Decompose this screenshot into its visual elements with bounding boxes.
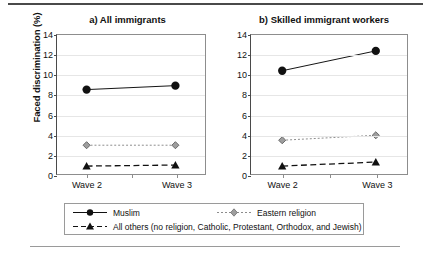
legend-item-muslim: Muslim [73,207,140,218]
y-tick-label: 6 [48,111,53,121]
series-line [282,162,376,166]
gridline [57,75,205,76]
y-tick-mark [54,95,57,96]
data-point-diamond [83,142,90,149]
y-tick-label: 14 [237,30,247,40]
y-tick-label: 2 [48,151,53,161]
data-point-circle [82,85,90,93]
gridline [57,55,205,56]
y-tick-label: 8 [48,90,53,100]
gridline [57,136,205,137]
legend-label-all-others: All others (no religion, Catholic, Prote… [113,222,362,232]
y-tick-mark [248,95,251,96]
y-tick-mark [248,156,251,157]
data-point-diamond [279,137,286,144]
y-tick-label: 0 [242,171,247,181]
panel-b-title: b) Skilled immigrant workers [222,14,414,25]
x-tick-mark [87,174,88,178]
data-point-circle [171,81,179,89]
y-tick-label: 10 [237,70,247,80]
y-tick-mark [54,136,57,137]
y-tick-label: 12 [237,50,247,60]
y-tick-mark [248,116,251,117]
gridline [57,95,205,96]
x-tick-label: Wave 2 [72,180,102,190]
legend-item-eastern-religion: Eastern religion [217,207,316,218]
y-tick-label: 6 [242,111,247,121]
panel-a-plot-area: 02468101214Wave 2Wave 3 [56,34,206,175]
y-tick-label: 14 [43,30,53,40]
y-tick-mark [54,156,57,157]
x-tick-mark-mid [330,174,331,178]
y-tick-mark [54,75,57,76]
y-tick-mark [248,75,251,76]
figure-container: Faced discrimination (%) a) All immigran… [0,0,431,261]
legend-item-all-others: All others (no religion, Catholic, Prote… [73,221,362,232]
panel-a-all-immigrants: a) All immigrants 02468101214Wave 2Wave … [28,14,213,204]
legend-marker-circle-icon [73,207,107,218]
y-tick-mark [248,35,251,36]
panel-a-title: a) All immigrants [28,14,213,25]
data-point-circle [278,67,286,75]
y-tick-mark [248,136,251,137]
x-tick-label: Wave 2 [268,180,298,190]
gridline [251,116,407,117]
y-tick-label: 0 [48,171,53,181]
gridline [251,55,407,56]
y-tick-mark [54,176,57,177]
x-tick-mark [283,174,284,178]
y-tick-label: 10 [43,70,53,80]
legend-label-muslim: Muslim [113,208,140,218]
x-tick-mark [177,174,178,178]
y-tick-label: 12 [43,50,53,60]
y-tick-mark [54,55,57,56]
gridline [57,116,205,117]
legend: Muslim Eastern religion All others (no r… [64,203,364,235]
data-point-circle [372,47,380,55]
y-tick-label: 2 [242,151,247,161]
bottom-divider-rule [30,246,400,247]
y-tick-mark [54,35,57,36]
data-point-diamond [172,142,179,149]
x-tick-label: Wave 3 [162,180,192,190]
gridline [251,156,407,157]
x-tick-mark [377,174,378,178]
panel-b-skilled-immigrant-workers: b) Skilled immigrant workers 02468101214… [222,14,414,204]
data-point-triangle [372,158,380,166]
gridline [57,156,205,157]
series-line [87,86,176,90]
top-divider-rule [8,3,423,5]
y-tick-label: 4 [242,131,247,141]
gridline [251,75,407,76]
y-tick-label: 8 [242,90,247,100]
gridline [251,95,407,96]
y-tick-label: 4 [48,131,53,141]
legend-marker-triangle-icon [73,221,107,232]
gridline [251,136,407,137]
series-line [87,165,176,166]
series-line [282,51,376,71]
x-tick-label: Wave 3 [362,180,392,190]
x-tick-mark-mid [132,174,133,178]
panel-b-plot-area: 02468101214Wave 2Wave 3 [250,34,408,175]
y-tick-mark [54,116,57,117]
y-tick-mark [248,55,251,56]
legend-marker-diamond-icon [217,207,251,218]
legend-label-eastern-religion: Eastern religion [257,208,316,218]
y-tick-mark [248,176,251,177]
